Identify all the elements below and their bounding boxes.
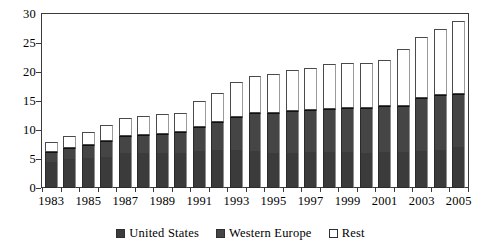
bar-group[interactable] — [45, 14, 58, 188]
bar-segment-western-europe[interactable] — [323, 109, 336, 152]
bar-segment-united-states[interactable] — [323, 152, 336, 188]
bar-segment-western-europe[interactable] — [341, 108, 354, 152]
bar-segment-united-states[interactable] — [119, 153, 132, 188]
bar-group[interactable] — [193, 14, 206, 188]
bar-segment-united-states[interactable] — [63, 159, 76, 188]
bar-group[interactable] — [211, 14, 224, 188]
bar-group[interactable] — [137, 14, 150, 188]
bar-group[interactable] — [415, 14, 428, 188]
bar-segment-rest[interactable] — [434, 29, 447, 96]
bar-group[interactable] — [230, 14, 243, 188]
bar-segment-rest[interactable] — [249, 76, 262, 113]
bar-segment-united-states[interactable] — [174, 153, 187, 188]
bar-segment-western-europe[interactable] — [119, 136, 132, 153]
x-tick-mark — [375, 188, 376, 192]
bar-segment-rest[interactable] — [211, 93, 224, 122]
bar-segment-rest[interactable] — [323, 64, 336, 109]
bar-segment-western-europe[interactable] — [174, 132, 187, 152]
bar-segment-rest[interactable] — [397, 49, 410, 106]
legend-item[interactable]: Western Europe — [216, 226, 312, 241]
bar-segment-western-europe[interactable] — [378, 106, 391, 152]
bar-group[interactable] — [267, 14, 280, 188]
bar-group[interactable] — [63, 14, 76, 188]
x-tick-mark — [468, 188, 469, 192]
bar-segment-western-europe[interactable] — [100, 141, 113, 157]
bar-segment-rest[interactable] — [360, 63, 373, 108]
bar-group[interactable] — [397, 14, 410, 188]
bar-segment-united-states[interactable] — [82, 158, 95, 188]
bar-segment-rest[interactable] — [119, 118, 132, 136]
bar-segment-united-states[interactable] — [378, 152, 391, 188]
bar-segment-western-europe[interactable] — [230, 117, 243, 150]
bar-segment-western-europe[interactable] — [249, 113, 262, 151]
bar-segment-rest[interactable] — [415, 37, 428, 97]
bar-segment-united-states[interactable] — [360, 153, 373, 188]
bar-segment-western-europe[interactable] — [45, 152, 58, 162]
bar-segment-rest[interactable] — [267, 74, 280, 113]
bar-segment-united-states[interactable] — [434, 150, 447, 188]
legend-item[interactable]: United States — [116, 226, 199, 241]
bar-group[interactable] — [452, 14, 465, 188]
bar-group[interactable] — [360, 14, 373, 188]
bar-group[interactable] — [323, 14, 336, 188]
bar-segment-western-europe[interactable] — [211, 122, 224, 150]
bar-segment-united-states[interactable] — [304, 152, 317, 188]
bar-segment-rest[interactable] — [193, 101, 206, 127]
x-tick-label: 1999 — [328, 194, 368, 209]
bar-group[interactable] — [434, 14, 447, 188]
bar-segment-western-europe[interactable] — [452, 94, 465, 147]
bar-segment-rest[interactable] — [137, 116, 150, 135]
bar-segment-united-states[interactable] — [452, 147, 465, 188]
bar-segment-rest[interactable] — [341, 63, 354, 108]
bar-segment-united-states[interactable] — [267, 153, 280, 188]
y-tick-label: 15 — [2, 95, 36, 107]
bar-segment-rest[interactable] — [63, 136, 76, 148]
bar-segment-rest[interactable] — [100, 125, 113, 141]
bar-segment-united-states[interactable] — [137, 153, 150, 188]
bar-segment-rest[interactable] — [230, 82, 243, 117]
bar-segment-united-states[interactable] — [45, 162, 58, 188]
bar-segment-western-europe[interactable] — [82, 145, 95, 158]
bar-segment-rest[interactable] — [452, 21, 465, 94]
bar-segment-united-states[interactable] — [211, 150, 224, 188]
bar-group[interactable] — [119, 14, 132, 188]
bar-segment-rest[interactable] — [156, 114, 169, 134]
bar-segment-western-europe[interactable] — [397, 106, 410, 152]
bar-segment-united-states[interactable] — [156, 153, 169, 188]
bar-group[interactable] — [82, 14, 95, 188]
bar-group[interactable] — [341, 14, 354, 188]
bar-group[interactable] — [174, 14, 187, 188]
bar-segment-united-states[interactable] — [415, 151, 428, 188]
bar-segment-united-states[interactable] — [100, 157, 113, 188]
bar-group[interactable] — [249, 14, 262, 188]
bar-segment-western-europe[interactable] — [415, 98, 428, 151]
bar-segment-western-europe[interactable] — [137, 135, 150, 154]
bar-segment-rest[interactable] — [45, 142, 58, 152]
bar-segment-rest[interactable] — [304, 68, 317, 110]
bar-segment-rest[interactable] — [286, 70, 299, 111]
bar-segment-western-europe[interactable] — [156, 134, 169, 153]
x-tick-mark — [357, 188, 358, 192]
bar-segment-rest[interactable] — [174, 113, 187, 133]
bar-segment-united-states[interactable] — [341, 152, 354, 188]
bar-group[interactable] — [378, 14, 391, 188]
bar-segment-rest[interactable] — [378, 60, 391, 106]
bar-segment-western-europe[interactable] — [304, 110, 317, 152]
bar-segment-united-states[interactable] — [286, 153, 299, 188]
bar-segment-western-europe[interactable] — [267, 113, 280, 152]
bar-segment-western-europe[interactable] — [360, 108, 373, 153]
legend-item[interactable]: Rest — [329, 226, 365, 241]
bar-segment-united-states[interactable] — [397, 152, 410, 188]
bar-segment-rest[interactable] — [82, 132, 95, 145]
bar-group[interactable] — [286, 14, 299, 188]
bar-segment-western-europe[interactable] — [286, 111, 299, 153]
bar-group[interactable] — [156, 14, 169, 188]
bar-segment-western-europe[interactable] — [434, 95, 447, 150]
bar-segment-united-states[interactable] — [230, 150, 243, 188]
bar-group[interactable] — [100, 14, 113, 188]
bar-group[interactable] — [304, 14, 317, 188]
bar-segment-western-europe[interactable] — [63, 148, 76, 159]
bar-segment-united-states[interactable] — [193, 151, 206, 188]
bar-segment-united-states[interactable] — [249, 151, 262, 188]
bar-segment-western-europe[interactable] — [193, 127, 206, 151]
